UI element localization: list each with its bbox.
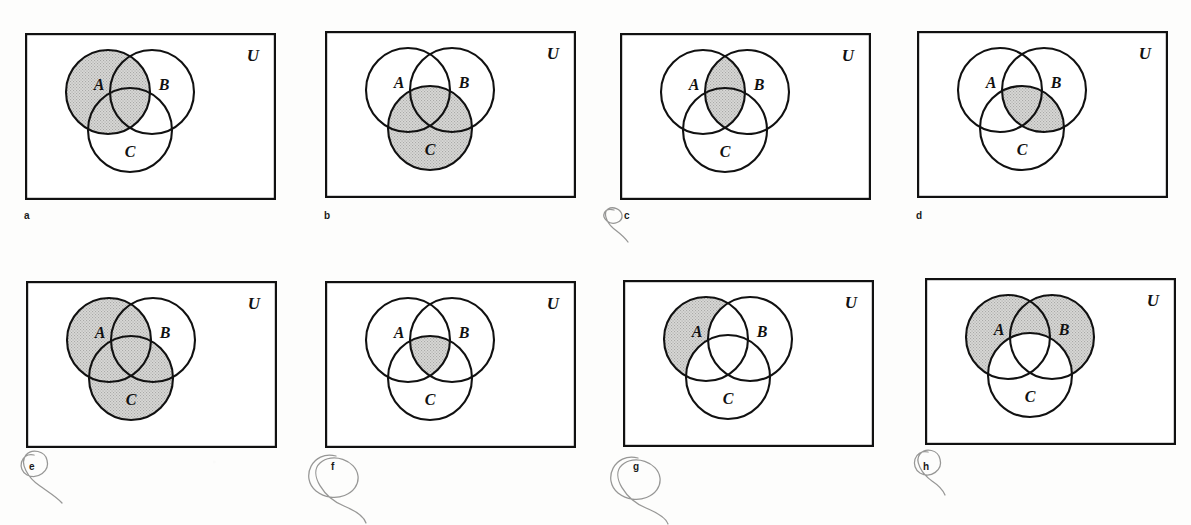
venn-panel-f: ABCU <box>325 281 576 448</box>
set-label-c: C <box>125 143 136 160</box>
panel-caption-f: f <box>331 462 334 472</box>
panel-caption-d: d <box>916 211 922 221</box>
set-label-c: C <box>720 143 731 160</box>
universe-label-u: U <box>547 294 560 313</box>
pencil-mark-2 <box>309 455 366 523</box>
set-label-b: B <box>458 74 470 91</box>
universe-rectangle <box>326 282 575 447</box>
set-label-b: B <box>158 76 170 93</box>
universe-label-u: U <box>1139 44 1152 63</box>
venn-panel-a: ABCU <box>25 33 276 200</box>
universe-label-u: U <box>845 293 858 312</box>
set-label-c: C <box>425 391 436 408</box>
universe-rectangle <box>26 34 275 199</box>
set-label-b: B <box>753 76 765 93</box>
set-label-a: A <box>688 76 700 93</box>
set-label-b: B <box>1058 321 1070 338</box>
venn-panel-e: ABCU <box>26 281 277 448</box>
venn-panel-b: ABCU <box>325 31 576 198</box>
set-label-a: A <box>993 321 1005 338</box>
set-label-c: C <box>425 141 436 158</box>
universe-rectangle <box>621 34 870 199</box>
set-label-b: B <box>756 323 768 340</box>
set-label-a: A <box>94 324 106 341</box>
set-label-a: A <box>985 74 997 91</box>
pencil-mark-3 <box>611 457 668 524</box>
panel-caption-g: g <box>633 462 639 472</box>
panel-caption-h: h <box>923 462 929 472</box>
venn-panel-h: ABCU <box>925 278 1176 445</box>
set-label-a: A <box>393 74 405 91</box>
universe-label-u: U <box>547 44 560 63</box>
universe-rectangle <box>624 281 873 446</box>
set-label-c: C <box>1017 141 1028 158</box>
set-label-a: A <box>393 324 405 341</box>
universe-label-u: U <box>842 46 855 65</box>
pencil-mark-1 <box>21 451 62 503</box>
set-label-b: B <box>1050 74 1062 91</box>
set-label-a: A <box>691 323 703 340</box>
panel-caption-b: b <box>324 211 330 221</box>
universe-label-u: U <box>247 46 260 65</box>
panel-caption-a: a <box>24 211 30 221</box>
set-label-c: C <box>1025 388 1036 405</box>
set-label-b: B <box>159 324 171 341</box>
set-label-c: C <box>723 390 734 407</box>
set-label-b: B <box>458 324 470 341</box>
panel-caption-e: e <box>29 462 35 472</box>
universe-label-u: U <box>1147 291 1160 310</box>
panel-caption-c: c <box>624 211 630 221</box>
venn-panel-g: ABCU <box>623 280 874 447</box>
venn-panel-d: ABCU <box>917 31 1168 198</box>
pencil-mark-4 <box>914 450 945 495</box>
universe-label-u: U <box>248 294 261 313</box>
venn-panel-c: ABCU <box>620 33 871 200</box>
set-label-c: C <box>126 391 137 408</box>
set-label-a: A <box>93 76 105 93</box>
